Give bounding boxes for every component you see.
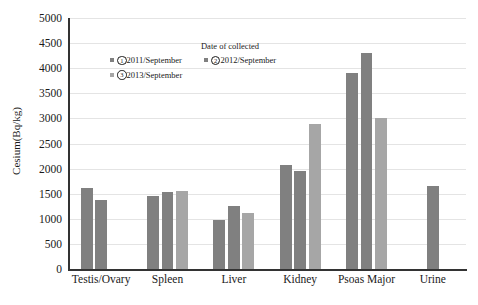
legend-circled-number: 1 [117, 56, 127, 66]
legend-circled-number: 3 [117, 70, 127, 80]
y-axis-tick-label: 4000 [2, 62, 68, 74]
x-axis-tick-label: Liver [221, 273, 246, 285]
bar [361, 53, 373, 269]
y-axis-line [68, 18, 70, 270]
y-axis-tick-label: 3500 [2, 87, 68, 99]
y-axis-tick-label: 4500 [2, 37, 68, 49]
legend-entry[interactable]: 22012/September [204, 56, 276, 66]
gridline [68, 194, 466, 195]
bar-chart: Cesium(Bq/kg) 05001000150020002500300035… [0, 0, 478, 305]
legend-title: Date of collected [146, 42, 314, 51]
y-axis-tick-label: 2000 [2, 163, 68, 175]
y-axis-tick-label: 1000 [2, 213, 68, 225]
bar-slot [95, 18, 107, 269]
gridline [68, 244, 466, 245]
gridline [68, 169, 466, 170]
legend-swatch-icon [204, 58, 208, 62]
legend-entry[interactable]: 32013/September [110, 70, 182, 80]
gridline [68, 219, 466, 220]
x-axis-tick-label: Psoas Major [338, 273, 395, 285]
bar [375, 118, 387, 269]
legend-entry[interactable]: 12011/September [110, 56, 182, 66]
bar [162, 192, 174, 269]
legend-swatch-icon [110, 58, 114, 62]
legend-row: 32013/September [110, 70, 370, 80]
legend-label: 2012/September [220, 56, 276, 65]
y-axis-tick-label: 0 [2, 263, 68, 275]
bar [346, 73, 358, 269]
legend-row: 12011/September22012/September [110, 56, 370, 66]
x-axis-line [68, 269, 467, 271]
bar [81, 188, 93, 269]
bar [427, 186, 439, 269]
gridline [68, 144, 466, 145]
legend-entries: 12011/September22012/September32013/Sept… [110, 56, 370, 80]
legend-label: 2011/September [127, 56, 182, 65]
y-axis-tick-label: 1500 [2, 188, 68, 200]
y-axis-tick-label: 5000 [2, 12, 68, 24]
bar-group [411, 18, 455, 269]
x-axis-tick-label: Testis/Ovary [72, 273, 131, 285]
x-axis-tick-label: Urine [420, 273, 446, 285]
y-axis-tick-label: 2500 [2, 138, 68, 150]
y-axis-tick-label: 3000 [2, 112, 68, 124]
bar [147, 196, 159, 269]
bar [213, 220, 225, 269]
bar-slot [81, 18, 93, 269]
y-axis-tick-label: 500 [2, 238, 68, 250]
legend-swatch-icon [110, 73, 114, 77]
legend-circled-number: 2 [211, 56, 221, 66]
bar-slot [427, 18, 439, 269]
gridline [68, 93, 466, 94]
bar [228, 206, 240, 269]
gridline [68, 18, 466, 19]
bar [280, 165, 292, 269]
bar [294, 171, 306, 269]
bar [309, 124, 321, 269]
bar-slot [375, 18, 387, 269]
x-axis-tick-label: Kidney [283, 273, 317, 285]
bar [176, 191, 188, 269]
gridline [68, 118, 466, 119]
legend-label: 2013/September [127, 71, 183, 80]
chart-legend: Date of collected 12011/September22012/S… [110, 42, 370, 85]
bar [242, 213, 254, 269]
x-axis-tick-label: Spleen [152, 273, 183, 285]
bar [95, 200, 107, 269]
